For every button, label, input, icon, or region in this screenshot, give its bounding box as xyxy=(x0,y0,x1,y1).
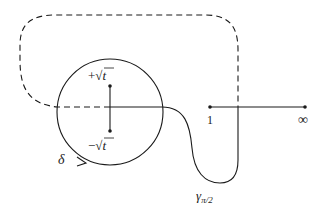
point-infinity xyxy=(303,105,307,109)
label-gamma: γπ/2 xyxy=(196,188,213,205)
label-infinity: ∞ xyxy=(298,112,308,127)
label-delta: δ xyxy=(58,152,65,167)
label-plus-sqrt-t: +√t xyxy=(88,68,106,83)
contour-diagram: +√t −√t δ 1 ∞ γπ/2 xyxy=(0,0,322,211)
point-minus-sqrt-t xyxy=(108,129,112,133)
label-minus-sqrt-t: −√t xyxy=(88,138,106,153)
label-one: 1 xyxy=(207,113,213,127)
point-plus-sqrt-t xyxy=(108,84,112,88)
point-one xyxy=(208,105,212,109)
gamma-path xyxy=(162,107,238,183)
dashed-return-path xyxy=(20,15,238,107)
